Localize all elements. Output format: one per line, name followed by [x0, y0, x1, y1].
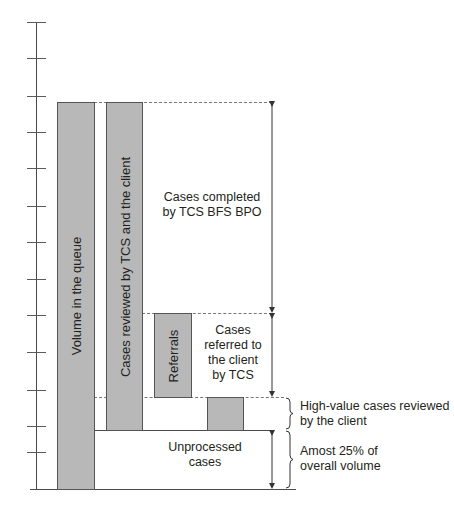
annotation-high-value-line1: High-value cases reviewed — [300, 399, 454, 414]
annotation-high-value: High-value cases reviewed by the client — [300, 399, 454, 429]
annotation-completed: Cases completed by TCS BFS BPO — [150, 190, 274, 220]
annotation-referred-line3: the client — [195, 353, 271, 368]
annotation-overall-volume-line2: overall volume — [300, 459, 454, 474]
annotation-overall-volume: Amost 25% of overall volume — [300, 444, 454, 474]
annotation-completed-line1: Cases completed — [150, 190, 274, 205]
annotation-completed-line2: by TCS BFS BPO — [150, 205, 274, 220]
annotation-overall-volume-line1: Amost 25% of — [300, 444, 454, 459]
annotation-referred-line2: referred to — [195, 338, 271, 353]
annotation-high-value-line2: by the client — [300, 414, 454, 429]
annotation-unprocessed: Unprocessed cases — [150, 440, 260, 470]
annotation-referred: Cases referred to the client by TCS — [195, 323, 271, 383]
annotation-referred-line4: by TCS — [195, 368, 271, 383]
annotation-unprocessed-line2: cases — [150, 455, 260, 470]
annotation-referred-line1: Cases — [195, 323, 271, 338]
annotation-unprocessed-line1: Unprocessed — [150, 440, 260, 455]
dimension-arrows — [0, 0, 454, 514]
